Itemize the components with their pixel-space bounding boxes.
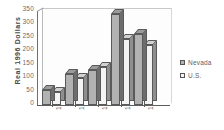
y-tick-label: 200 [23,45,34,52]
bar-face [42,90,51,105]
bar-face [134,34,143,105]
legend-item-nevada[interactable]: Nevada [180,58,224,66]
y-tick-label: 250 [23,31,34,38]
y-tick-label: 100 [23,72,34,79]
y-tick-label: 150 [23,58,34,65]
legend-label: Nevada [188,59,212,66]
bar-group [111,11,135,105]
bar-group [65,11,89,105]
bar-side [143,30,147,101]
y-axis-tick-labels: 050100150200250300350 [14,8,34,106]
bar-face [111,14,120,105]
bar-group [88,11,112,105]
y-tick-label: 300 [23,18,34,25]
legend-swatch-icon [180,60,185,65]
bar-side [153,41,157,101]
chart-legend: NevadaU.S. [180,58,224,84]
y-tick-label: 350 [23,5,34,12]
bar-side [74,70,78,101]
bar-face [65,74,74,105]
y-tick-label: 50 [26,85,34,92]
bar-side [120,10,124,101]
bar-face [88,70,97,105]
bar-group [42,11,66,105]
bar-group [134,11,158,105]
bar-series-container [37,11,170,105]
legend-swatch-icon [180,73,185,78]
bar-chart: Real 1996 Dollars 050100150200250300350 … [0,0,224,130]
legend-item-us[interactable]: U.S. [180,71,224,79]
legend-label: U.S. [188,72,201,79]
bar-side [97,66,101,101]
y-tick-label: 0 [30,99,34,106]
